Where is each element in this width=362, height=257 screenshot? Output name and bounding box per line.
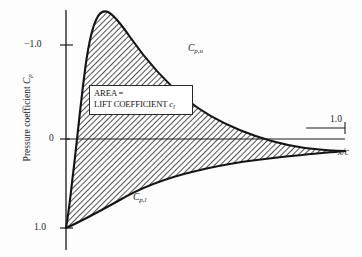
curve-label-cp-upper-subscript: p,u [194, 47, 203, 55]
area-lift-coefficient-annotation: AREA = LIFT COEFFICIENT cl [89, 85, 193, 115]
annotation-line-lift-coefficient: LIFT COEFFICIENT cl [94, 99, 189, 112]
shaded-lift-area [66, 11, 345, 228]
annotation-lift-subscript: l [173, 102, 175, 110]
annotation-line-area: AREA = [94, 88, 189, 99]
y-tick-label-pos-one: 1.0 [34, 222, 46, 232]
annotation-lift-text: LIFT COEFFICIENT [94, 99, 167, 109]
y-axis-title-symbol: C [22, 78, 32, 84]
curve-label-cp-lower: Cp,l [133, 192, 147, 204]
y-axis-title: Pressure coefficient Cp [22, 38, 34, 198]
x-tick-label-one: 1.0 [330, 114, 342, 124]
curve-label-cp-upper: Cp,u [188, 43, 203, 55]
y-tick-label-zero: 0 [49, 133, 54, 143]
y-axis-title-text: Pressure coefficient [22, 86, 32, 161]
y-tick-label-neg-one: −1.0 [24, 39, 42, 49]
x-axis-title: x/c [338, 147, 349, 157]
y-axis-title-subscript: p [26, 74, 34, 78]
pressure-coefficient-figure: Pressure coefficient Cp −1.0 0 1.0 1.0 x… [0, 0, 362, 257]
curve-label-cp-lower-subscript: p,l [139, 196, 146, 204]
chart-canvas [0, 0, 362, 257]
